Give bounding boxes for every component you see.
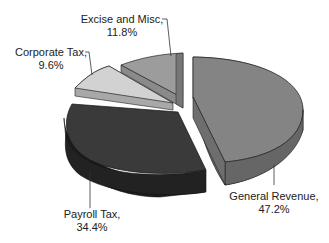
- slice-general-revenue: [193, 57, 303, 185]
- label-payroll-tax: Payroll Tax, 34.4%: [58, 208, 126, 234]
- label-general-revenue-value: 47.2%: [228, 203, 320, 216]
- label-excise-misc-value: 11.8%: [80, 26, 164, 39]
- pie-chart: Excise and Misc, 11.8% Corporate Tax, 9.…: [0, 0, 329, 243]
- label-corporate-tax: Corporate Tax, 9.6%: [15, 46, 87, 72]
- label-corporate-tax-value: 9.6%: [15, 59, 87, 72]
- label-excise-misc: Excise and Misc, 11.8%: [80, 13, 164, 39]
- label-payroll-tax-name: Payroll Tax,: [58, 208, 126, 221]
- label-excise-misc-name: Excise and Misc,: [80, 13, 164, 26]
- label-general-revenue: General Revenue, 47.2%: [228, 190, 320, 216]
- slice-payroll-tax: [64, 104, 206, 197]
- label-payroll-tax-value: 34.4%: [58, 221, 126, 234]
- label-corporate-tax-name: Corporate Tax,: [15, 46, 87, 59]
- label-general-revenue-name: General Revenue,: [228, 190, 320, 203]
